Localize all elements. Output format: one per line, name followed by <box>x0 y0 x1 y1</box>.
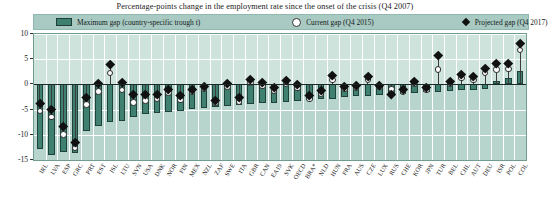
x-tick-label-DEU: DEU <box>481 162 494 177</box>
projected-gap-marker-COL <box>516 38 525 47</box>
gridline-vertical <box>432 34 433 160</box>
bar-DEU <box>482 84 489 89</box>
x-tick-label-PRT: PRT <box>84 162 96 175</box>
gridline-vertical <box>303 34 304 160</box>
x-tick-label-SWE: SWE <box>223 162 236 177</box>
gridline-vertical <box>491 34 492 160</box>
x-tick-label-EST: EST <box>95 162 107 175</box>
x-tick-label-HUN: HUN <box>328 162 341 178</box>
current-gap-marker-ISL <box>107 70 114 77</box>
gridline-vertical <box>339 34 340 160</box>
x-tick-label-ISL: ISL <box>108 162 119 174</box>
bar-AUT <box>470 84 477 90</box>
y-tick-label: -10 <box>6 130 28 139</box>
legend-item-projected-gap: Projected gap (Q4 2017) <box>462 18 548 27</box>
gridline-vertical <box>128 34 129 160</box>
bar-swatch-icon <box>56 18 72 26</box>
current-gap-marker-TUR <box>435 66 442 73</box>
y-tick-mark <box>30 58 33 59</box>
gridline-vertical <box>362 34 363 160</box>
gridline-vertical <box>245 34 246 160</box>
y-tick-mark <box>30 33 33 34</box>
gridline-vertical <box>257 34 258 160</box>
gridline-vertical <box>151 34 152 160</box>
gridline-vertical <box>374 34 375 160</box>
x-tick-label-CZE: CZE <box>364 162 376 176</box>
x-tick-label-USA: USA <box>141 162 154 177</box>
gridline-vertical <box>503 34 504 160</box>
y-tick-label: 5 <box>6 54 28 63</box>
legend-item-current-gap: Current gap (Q4 2015) <box>292 18 374 27</box>
x-tick-label-GRC: GRC <box>71 162 84 177</box>
chart-legend: Maximum gap (country-specific trough t) … <box>33 14 529 30</box>
y-tick-mark <box>30 159 33 160</box>
x-tick-label-TUR: TUR <box>434 162 447 177</box>
current-gap-marker-SVN <box>130 99 137 106</box>
gridline-vertical <box>198 34 199 160</box>
legend-label-projected-gap: Projected gap (Q4 2017) <box>475 18 548 27</box>
gridline-vertical <box>280 34 281 160</box>
y-tick-label: 0 <box>6 79 28 88</box>
gridline-vertical <box>444 34 445 160</box>
gridline-vertical <box>327 34 328 160</box>
bar-HUN <box>329 84 336 98</box>
current-gap-marker-PRT <box>83 101 90 108</box>
x-tick-label-CHL: CHL <box>458 162 471 177</box>
gridline-vertical <box>210 34 211 160</box>
bar-CZE <box>365 84 372 96</box>
gridline-vertical <box>409 34 410 160</box>
x-tick-label-AUS: AUS <box>352 162 365 177</box>
x-tick-label-KOR: KOR <box>410 162 423 177</box>
gridline-vertical <box>350 34 351 160</box>
gridline-vertical <box>116 34 117 160</box>
gridline-vertical <box>292 34 293 160</box>
plot-area <box>33 33 527 161</box>
x-tick-label-MEX: MEX <box>188 162 202 178</box>
gridline-vertical <box>514 34 515 160</box>
chart-title: Percentage-points change in the employme… <box>0 2 530 11</box>
gridline-vertical <box>397 34 398 160</box>
filled-diamond-swatch-icon <box>461 18 469 26</box>
x-tick-label-FRA: FRA <box>341 162 354 176</box>
x-tick-label-NOR: NOR <box>164 162 177 177</box>
x-tick-label-NZL: NZL <box>200 162 213 176</box>
projected-gap-marker-ISL <box>106 60 115 69</box>
x-tick-label-LVA: LVA <box>48 162 60 176</box>
gridline-vertical <box>163 34 164 160</box>
bar-ISL <box>107 84 114 122</box>
y-tick-label: 10 <box>6 29 28 38</box>
x-tick-label-NLD: NLD <box>317 162 330 177</box>
gridline-vertical <box>467 34 468 160</box>
x-tick-label-CHE: CHE <box>399 162 412 177</box>
x-tick-label-RUS: RUS <box>388 162 401 176</box>
gridline-vertical <box>421 34 422 160</box>
x-tick-label-IRL: IRL <box>37 162 48 175</box>
open-circle-swatch-icon <box>292 18 301 27</box>
x-tick-label-LUX: LUX <box>376 162 389 177</box>
bar-CHL <box>458 84 465 90</box>
zero-line <box>34 84 526 85</box>
gridline-vertical <box>221 34 222 160</box>
x-tick-label-DNK: DNK <box>153 162 166 178</box>
gridline-vertical <box>186 34 187 160</box>
legend-label-maximum-gap: Maximum gap (country-specific trough t) <box>77 18 200 27</box>
gridline-vertical <box>268 34 269 160</box>
x-tick-label-AUT: AUT <box>469 162 482 177</box>
y-tick-mark <box>30 83 33 84</box>
x-tick-label-LTU: LTU <box>119 162 131 176</box>
x-tick-label-BEL: BEL <box>446 162 458 176</box>
gridline-vertical <box>315 34 316 160</box>
x-axis-labels: IRLLVAESPGRCPRTESTISLLTUSVNUSADNKNORFINM… <box>33 162 527 204</box>
gridline-vertical <box>46 34 47 160</box>
projected-gap-marker-HUN <box>328 70 337 79</box>
y-tick-label: -15 <box>6 155 28 164</box>
x-tick-label-GBR: GBR <box>247 162 260 177</box>
gridline-vertical <box>139 34 140 160</box>
gridline-vertical <box>104 34 105 160</box>
bar-TUR <box>435 84 442 92</box>
gridline-vertical <box>93 34 94 160</box>
gridline-vertical <box>57 34 58 160</box>
x-tick-label-COL: COL <box>516 162 529 177</box>
x-tick-label-SVN: SVN <box>130 162 143 177</box>
y-tick-label: -5 <box>6 105 28 114</box>
